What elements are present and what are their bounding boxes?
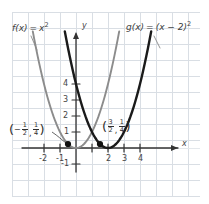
- point-label-left: ( − 1 2 , 1 4 ): [9, 122, 45, 137]
- g-exponent: 2: [187, 20, 191, 28]
- point-left-y-denominator: 4: [33, 130, 39, 137]
- point-left-x-numerator: 1: [22, 122, 28, 129]
- f-exponent: 2: [44, 21, 48, 29]
- x-tick-label-4: 4: [138, 155, 143, 163]
- point-right-open-paren: (: [102, 121, 107, 133]
- point-right-x-fraction: 3 2: [108, 119, 114, 134]
- point-left-close-paren: ): [40, 124, 45, 136]
- y-tick-label-4: 4: [63, 80, 68, 88]
- y-axis-arrow: [73, 32, 79, 39]
- g-equals: =: [146, 22, 154, 32]
- point-marker-right: [97, 141, 103, 147]
- point-left-x-denominator: 2: [22, 130, 28, 137]
- point-left-comma: ,: [29, 130, 32, 138]
- x-axis-label: x: [182, 140, 187, 148]
- g-argument: (x): [132, 22, 144, 32]
- x-tick-label-3: 3: [122, 155, 127, 163]
- x-axis-arrow: [171, 145, 178, 151]
- function-label-g: g(x)=(x − 2)2: [126, 23, 191, 32]
- y-tick-label--1: -1: [61, 160, 69, 168]
- point-right-y-denominator: 4: [119, 127, 125, 134]
- point-left-open-paren: (: [9, 124, 14, 136]
- point-label-right: ( 3 2 , 1 4 ): [102, 119, 130, 134]
- axis-lines: [22, 34, 178, 172]
- point-left-y-fraction: 1 4: [33, 122, 39, 137]
- label-leader-lines: [31, 36, 160, 50]
- x-tick-label--2: -2: [39, 155, 47, 163]
- point-marker-left: [65, 141, 71, 147]
- grid-lines: [12, 12, 200, 196]
- point-left-minus: −: [14, 126, 21, 134]
- point-right-close-paren: ): [125, 121, 130, 133]
- g-rhs: (x − 2): [156, 22, 187, 32]
- graph-figure: f(x)=x2 g(x)=(x − 2)2 y x -2 -1 2 3 4 4 …: [0, 0, 209, 204]
- point-right-y-fraction: 1 4: [119, 119, 125, 134]
- y-tick-label-2: 2: [63, 112, 68, 120]
- point-right-x-denominator: 2: [108, 127, 114, 134]
- point-left-y-numerator: 1: [33, 122, 39, 129]
- function-label-f: f(x)=x2: [12, 24, 49, 33]
- y-tick-label-1: 1: [64, 128, 69, 136]
- g-label-leader: [154, 36, 160, 48]
- x-tick-label-2: 2: [106, 155, 111, 163]
- f-argument: (x): [15, 23, 27, 33]
- point-left-x-fraction: 1 2: [22, 122, 28, 137]
- y-axis-label: y: [82, 22, 87, 30]
- point-right-y-numerator: 1: [119, 119, 125, 126]
- point-right-comma: ,: [115, 127, 118, 135]
- point-right-x-numerator: 3: [108, 119, 114, 126]
- y-tick-label-3: 3: [63, 96, 68, 104]
- f-equals: =: [30, 23, 38, 33]
